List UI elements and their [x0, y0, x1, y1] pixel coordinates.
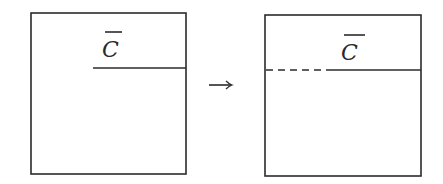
right-label-c: C [341, 40, 358, 65]
diagram-canvas: C C [0, 0, 443, 184]
left-panel: C [31, 13, 186, 174]
left-label-c: C [102, 37, 119, 62]
right-panel: C [265, 15, 421, 176]
transform-arrow [209, 81, 232, 89]
